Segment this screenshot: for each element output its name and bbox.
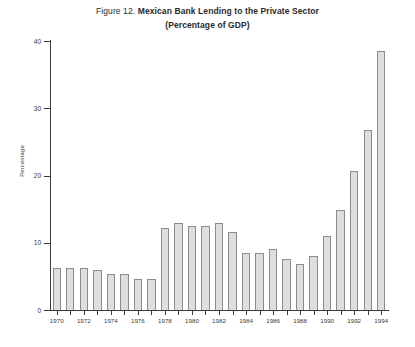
y-axis-tick-label: 10: [11, 239, 41, 246]
x-axis-tick: [70, 311, 71, 315]
x-axis-tick: [273, 311, 274, 315]
bar: [323, 236, 331, 310]
bar: [255, 253, 263, 310]
x-axis-tick: [57, 311, 58, 315]
y-axis-tick-label: 40: [11, 38, 41, 45]
x-axis-tick: [300, 311, 301, 315]
bar: [296, 264, 304, 310]
bar: [80, 268, 88, 310]
x-axis-tick: [192, 311, 193, 315]
x-axis-tick: [219, 311, 220, 315]
bar: [364, 130, 372, 310]
x-axis-tick: [111, 311, 112, 315]
x-axis-tick: [138, 311, 139, 315]
plot-area: [50, 41, 388, 310]
bar: [161, 228, 169, 310]
x-axis-tick-label: 1994: [361, 317, 401, 325]
x-axis-tick: [178, 311, 179, 315]
bar: [147, 279, 155, 310]
x-axis-tick: [97, 311, 98, 315]
bar: [215, 223, 223, 310]
chart-subtitle: (Percentage of GDP): [0, 19, 415, 31]
figure-container: Figure 12. Mexican Bank Lending to the P…: [0, 0, 415, 347]
y-axis-tick-label: 30: [11, 105, 41, 112]
bar: [53, 268, 61, 310]
bar: [93, 270, 101, 310]
x-axis-tick: [260, 311, 261, 315]
bar: [228, 232, 236, 310]
x-axis-tick: [368, 311, 369, 315]
bar: [242, 253, 250, 310]
y-axis-tick-label: 20: [11, 172, 41, 179]
x-axis-tick: [84, 311, 85, 315]
x-axis-tick: [246, 311, 247, 315]
bar: [174, 223, 182, 310]
bar: [120, 274, 128, 310]
x-axis-tick: [233, 311, 234, 315]
x-axis-tick: [341, 311, 342, 315]
y-axis-tick-label: 0: [11, 307, 41, 314]
bar: [282, 259, 290, 310]
x-axis-tick: [151, 311, 152, 315]
bar: [269, 249, 277, 310]
x-axis-tick: [287, 311, 288, 315]
bar: [350, 171, 358, 310]
y-axis-tick: [44, 310, 50, 311]
bar: [377, 51, 385, 310]
chart-title-block: Figure 12. Mexican Bank Lending to the P…: [0, 5, 415, 31]
x-axis-tick: [381, 311, 382, 315]
bar: [66, 268, 74, 310]
x-axis-tick: [327, 311, 328, 315]
x-axis-tick: [124, 311, 125, 315]
x-axis-tick: [354, 311, 355, 315]
chart-title-main: Mexican Bank Lending to the Private Sect…: [138, 6, 319, 16]
x-axis-tick: [165, 311, 166, 315]
bar: [188, 226, 196, 310]
chart-title-line-1: Figure 12. Mexican Bank Lending to the P…: [0, 5, 415, 17]
bar: [309, 256, 317, 310]
x-axis-tick: [205, 311, 206, 315]
y-axis-title: Percentage: [19, 131, 25, 191]
bar: [201, 226, 209, 310]
bar: [107, 274, 115, 310]
x-axis-tick: [314, 311, 315, 315]
bar: [336, 210, 344, 310]
bar: [134, 279, 142, 310]
figure-number: Figure 12.: [96, 6, 135, 16]
